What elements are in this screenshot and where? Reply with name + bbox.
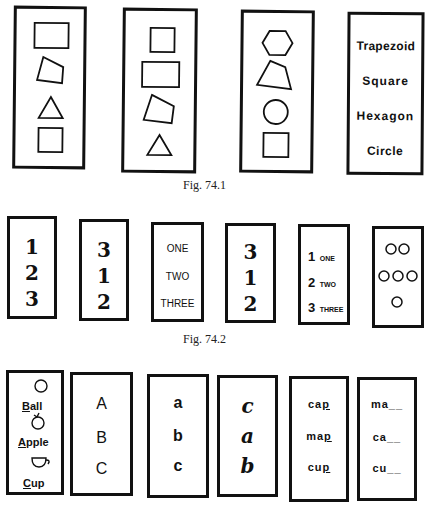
pair-2-two: 2 TWO xyxy=(308,273,336,291)
fig2-card-2: 3 1 2 xyxy=(79,219,129,321)
figure-caption-74-2: Fig. 74.2 xyxy=(183,332,226,347)
figure-caption-74-1: Fig. 74.1 xyxy=(183,178,226,193)
shapes-column xyxy=(239,10,315,174)
blank-cu: cu__ xyxy=(360,462,414,474)
blank-ca: ca__ xyxy=(360,431,414,443)
word-trapezoid: Trapezoid xyxy=(350,39,421,53)
word-cup: cup xyxy=(292,461,346,473)
number-1: 1 xyxy=(228,266,273,290)
letter-c: c xyxy=(150,457,206,475)
square-shape xyxy=(263,133,288,157)
fig2-card-3-number-words: ONE TWO THREE xyxy=(151,222,204,322)
dots xyxy=(372,226,424,328)
triangle-shape xyxy=(39,97,63,118)
hexagon-shape xyxy=(262,31,292,55)
number-3: 3 xyxy=(228,240,273,264)
letter-A: A xyxy=(73,395,130,413)
word-two: TWO xyxy=(154,271,201,282)
number-3: 3 xyxy=(10,287,54,311)
fig1-card-1 xyxy=(12,6,87,170)
cup-icon xyxy=(32,458,49,467)
circle-shape xyxy=(264,100,288,124)
cursive-b: b xyxy=(220,454,275,478)
shapes-column xyxy=(121,8,198,174)
square-shape xyxy=(38,128,62,152)
trapezoid-shape xyxy=(144,95,174,123)
word-one: ONE xyxy=(154,243,201,254)
fig1-card-4-word-list: Trapezoid Square Hexagon Circle xyxy=(346,12,424,176)
fig3-card-3-lowercase: a b c xyxy=(147,374,209,498)
triangle-shape xyxy=(147,135,171,155)
fig2-card-4: 3 1 2 xyxy=(225,223,276,323)
number-2: 2 xyxy=(228,292,273,316)
letter-B: B xyxy=(73,429,130,447)
number-1: 1 xyxy=(10,235,54,259)
number-2: 2 xyxy=(10,261,54,285)
fig2-card-6-dot-groups xyxy=(372,226,424,328)
word-circle: Circle xyxy=(350,144,421,158)
word-ball: Ball xyxy=(22,396,42,414)
one-dot xyxy=(392,297,402,307)
fig3-card-4-cursive: c a b xyxy=(217,375,278,497)
word-cup: Cup xyxy=(23,473,44,491)
pair-1-one: 1 ONE xyxy=(308,247,335,265)
word-hexagon: Hexagon xyxy=(350,109,421,123)
fig3-card-5-word-family: cap map cup xyxy=(289,376,349,502)
three-dots xyxy=(379,271,417,281)
letter-a: a xyxy=(150,394,206,412)
cursive-c: c xyxy=(220,394,275,418)
shapes-column xyxy=(12,6,87,170)
number-2: 2 xyxy=(82,290,126,314)
number-1: 1 xyxy=(82,264,126,288)
fig3-card-1-picture-words: Ball Apple Cup xyxy=(6,370,64,495)
letter-b: b xyxy=(150,427,206,445)
blank-ma: ma__ xyxy=(360,398,414,410)
fig1-card-2 xyxy=(121,8,198,174)
word-apple: Apple xyxy=(18,432,49,450)
fig2-card-5-numbers-with-words: 1 ONE 2 TWO 3 THREE xyxy=(298,224,350,325)
ball-icon xyxy=(35,380,47,392)
number-3: 3 xyxy=(82,238,126,262)
word-three: THREE xyxy=(154,298,201,309)
pair-3-three: 3 THREE xyxy=(308,298,343,316)
fig3-card-6-fill-blanks: ma__ ca__ cu__ xyxy=(357,377,417,501)
fig2-card-1: 1 2 3 xyxy=(7,216,57,319)
trapezoid-shape xyxy=(37,57,63,83)
cursive-a: a xyxy=(220,424,275,448)
rectangle-shape xyxy=(34,23,68,48)
trapezoid-shape xyxy=(257,61,291,89)
two-dots xyxy=(386,244,409,254)
word-square: Square xyxy=(350,74,421,88)
apple-icon xyxy=(32,413,44,429)
fig3-card-2-uppercase: A B C xyxy=(70,372,133,496)
letter-C: C xyxy=(73,460,130,478)
word-map: map xyxy=(292,430,346,442)
word-cap: cap xyxy=(292,398,346,410)
rectangle-shape xyxy=(142,62,179,87)
fig1-card-3 xyxy=(239,10,315,174)
square-shape xyxy=(150,28,174,52)
